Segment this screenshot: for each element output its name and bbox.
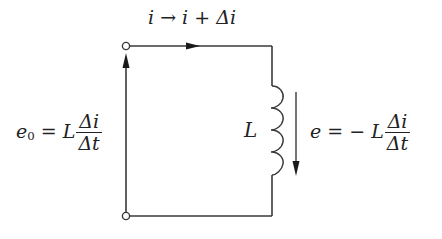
emf-minus: − [349,120,365,142]
inductor-coil-icon [271,86,283,175]
bottom-terminal-icon [122,212,129,219]
emf-fraction-denominator: Δt [385,133,410,153]
current-arrow-symbol: → [160,6,176,28]
current-i2: i [182,6,188,28]
current-arrow-icon [186,43,200,50]
top-terminal-icon [122,42,129,49]
circuit-diagram: i → i + Δi e0 = LΔiΔt L e = − LΔiΔt [0,0,442,239]
source-fraction-numerator: Δi [76,112,101,133]
emf-label: e = − LΔiΔt [310,112,410,153]
source-voltage-label: e0 = LΔiΔt [16,112,102,153]
emf-equals: = [327,120,343,142]
emf-down-arrow-icon [293,161,300,176]
emf-fraction-numerator: Δi [385,112,410,133]
source-fraction-denominator: Δt [76,133,101,153]
source-equals: = [41,120,57,142]
current-i: i [148,6,154,28]
source-fraction: ΔiΔt [76,112,101,153]
current-label: i → i + Δi [148,8,236,27]
voltage-up-arrow-icon [123,53,130,68]
emf-L: L [371,120,384,142]
current-delta-i: Δi [216,6,236,28]
emf-e: e [310,120,321,142]
source-e: e [16,120,27,142]
current-plus: + [194,6,210,28]
source-e-subscript: 0 [27,129,35,143]
source-L: L [63,120,76,142]
inductor-label: L [244,120,257,140]
emf-fraction: ΔiΔt [385,112,410,153]
